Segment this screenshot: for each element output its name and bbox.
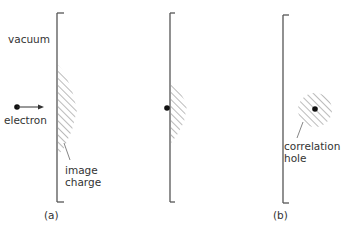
- image-charge-label-line2: charge: [65, 176, 101, 188]
- image-charge-leader: [64, 143, 70, 160]
- surface-bracket-b: [283, 15, 289, 203]
- electron-dot-middle: [164, 105, 170, 111]
- electron-label: electron: [4, 114, 47, 126]
- electron-dot-b: [312, 106, 318, 112]
- image-charge-region: [58, 65, 77, 155]
- image-charge-region-middle: [171, 80, 187, 143]
- panel-a-label: (a): [44, 209, 59, 221]
- panel-b-label: (b): [273, 209, 288, 221]
- vacuum-label: vacuum: [8, 33, 50, 45]
- correlation-hole-label-line1: correlation: [284, 140, 340, 152]
- image-charge-label-line1: image: [65, 164, 98, 176]
- correlation-hole-label-line2: hole: [284, 152, 306, 164]
- diagram-canvas: [0, 0, 347, 227]
- arrow-right-icon: [17, 105, 44, 110]
- correlation-hole-leader: [297, 122, 303, 138]
